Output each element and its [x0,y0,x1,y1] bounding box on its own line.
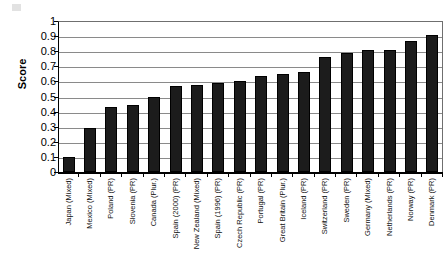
y-axis-ticks: 10.90.80.70.60.50.40.30.20.10 [0,0,56,271]
bar [127,105,139,172]
x-label-cell: Sweden (PR) [336,178,357,270]
x-tick-label: Germany (Mixed) [364,178,372,236]
x-tick-label: Czech Republic (PR) [236,178,244,248]
x-tick-cell [336,172,357,177]
x-tick-label: Spain (2000) (PR) [172,178,180,238]
x-label-cell: Denmark (PR) [422,178,443,270]
x-label-cell: Portugal (PR) [251,178,272,270]
bar-slot [165,21,186,172]
x-tick-cell [229,172,250,177]
bar-slot [315,21,336,172]
y-tick-label: 0.3 [4,121,56,132]
bar [170,86,182,172]
x-tick-label: Switzerland (PR) [322,178,330,234]
bar-slot [229,21,250,172]
y-tick-label: 0.9 [4,31,56,42]
bar [362,50,374,172]
bar [277,74,289,172]
x-tick-cell [315,172,336,177]
x-label-cell: Germany (Mixed) [357,178,378,270]
bar [148,97,160,172]
x-tick-label: New Zealand (Mixed) [193,178,201,249]
x-label-cell: Czech Republic (PR) [229,178,250,270]
x-tick-label: Norway (PR) [407,178,415,221]
bar [426,35,438,172]
x-tick-cell [400,172,421,177]
x-tick-cell [58,172,79,177]
x-label-cell: Iceland (PR) [293,178,314,270]
y-tick-label: 0.4 [4,106,56,117]
y-tick-label: 0 [4,167,56,178]
x-tick-label: Japan (Mixed) [65,178,73,226]
x-tick-label: Spain (1996) (PR) [215,178,223,238]
x-tick-cell [357,172,378,177]
x-tick-cell [79,172,100,177]
x-label-cell: Slovenia (PR) [122,178,143,270]
bar [405,41,417,172]
bar [84,128,96,172]
bar-slot [400,21,421,172]
bar-slot [357,21,378,172]
bar-slot [208,21,229,172]
x-tick-label: Netherlands (PR) [386,178,394,236]
bar-slot [58,21,79,172]
y-tick-label: 0.5 [4,91,56,102]
bar-chart: Score 10.90.80.70.60.50.40.30.20.10 Japa… [0,0,445,271]
x-tick-cell [122,172,143,177]
y-tick-label: 1 [4,16,56,27]
x-tick-label: Great Britain (Plur.) [279,178,287,242]
x-tick-cell [186,172,207,177]
x-tick-label: Denmark (PR) [429,178,437,226]
x-label-cell: Canada (Plur.) [144,178,165,270]
bar [63,157,75,172]
x-label-cell: Switzerland (PR) [315,178,336,270]
x-axis-tickmarks [58,172,443,177]
x-tick-cell [251,172,272,177]
x-tick-cell [272,172,293,177]
x-label-cell: Mexico (Mixed) [79,178,100,270]
bar-slot [293,21,314,172]
bar [234,81,246,172]
x-label-cell: Poland (PR) [101,178,122,270]
bar [384,50,396,172]
bar [298,72,310,172]
x-tick-label: Mexico (Mixed) [86,178,94,229]
bar-slot [122,21,143,172]
x-tick-cell [422,172,443,177]
x-tick-cell [101,172,122,177]
bar-slot [336,21,357,172]
x-tick-label: Poland (PR) [108,178,116,219]
x-axis-labels: Japan (Mixed)Mexico (Mixed)Poland (PR)Sl… [58,178,443,270]
x-tick-label: Iceland (PR) [300,178,308,220]
x-label-cell: Netherlands (PR) [379,178,400,270]
bar-slot [272,21,293,172]
x-tick-cell [208,172,229,177]
x-label-cell: Spain (1996) (PR) [208,178,229,270]
x-tick-label: Slovenia (PR) [129,178,137,224]
y-tick-label: 0.1 [4,151,56,162]
x-label-cell: New Zealand (Mixed) [186,178,207,270]
bar-slot [144,21,165,172]
bar-slot [79,21,100,172]
bar [255,76,267,172]
bar-slot [251,21,272,172]
bar [191,85,203,172]
y-tick-label: 0.2 [4,136,56,147]
x-label-cell: Norway (PR) [400,178,421,270]
bar-series [58,21,443,172]
bar [105,107,117,172]
x-tick-cell [165,172,186,177]
x-tick-label: Canada (Plur.) [151,178,159,226]
x-label-cell: Japan (Mixed) [58,178,79,270]
y-tick-label: 0.6 [4,76,56,87]
x-tick-label: Portugal (PR) [257,178,265,223]
bar [319,57,331,173]
bar-slot [379,21,400,172]
bar-slot [422,21,443,172]
bar [341,53,353,172]
x-tick-cell [379,172,400,177]
bar [212,83,224,172]
x-tick-cell [144,172,165,177]
y-tick-label: 0.8 [4,46,56,57]
x-label-cell: Great Britain (Plur.) [272,178,293,270]
